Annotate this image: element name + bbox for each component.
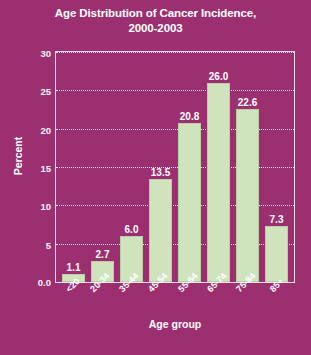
bar-slot: 26.0 xyxy=(204,52,233,282)
bar[interactable]: 13.5 xyxy=(149,179,172,283)
bar-value-label: 2.7 xyxy=(96,249,110,260)
bar-slot: 2.7 xyxy=(88,52,117,282)
bar[interactable]: 20.8 xyxy=(178,123,201,282)
bar-value-label: 22.6 xyxy=(238,97,257,108)
chart-title-line-2: 2000-2003 xyxy=(0,21,311,36)
y-tick-label-10: 10 xyxy=(40,201,51,212)
bar[interactable]: 26.0 xyxy=(207,83,230,282)
x-axis-tick-labels: <20 20-34 35-44 45-54 55-64 65-74 75-84 … xyxy=(55,283,295,319)
y-tick-label-30: 30 xyxy=(40,48,51,59)
chart-title: Age Distribution of Cancer Incidence, 20… xyxy=(0,6,311,36)
bar-value-label: 13.5 xyxy=(151,167,170,178)
x-tick-slot: 35-44 xyxy=(117,283,146,319)
bar-slot: 7.3 xyxy=(262,52,291,282)
bar-slot: 6.0 xyxy=(117,52,146,282)
x-tick-slot: 85+ xyxy=(263,283,292,319)
x-tick-slot: 20-34 xyxy=(87,283,116,319)
y-tick-label-25: 25 xyxy=(40,86,51,97)
y-tick-label-20: 20 xyxy=(40,124,51,135)
x-tick-slot: 55-64 xyxy=(175,283,204,319)
chart-title-line-1: Age Distribution of Cancer Incidence, xyxy=(55,7,256,19)
y-tick-label-5: 5 xyxy=(46,239,51,250)
y-tick-label-15: 15 xyxy=(40,163,51,174)
x-axis-title: Age group xyxy=(55,318,295,330)
bar-value-label: 20.8 xyxy=(180,111,199,122)
bar-value-label: 1.1 xyxy=(67,262,81,273)
plot-area: 30 25 20 15 10 5 0.0 1.1 xyxy=(55,51,295,283)
x-tick-slot: 65-74 xyxy=(204,283,233,319)
bar-value-label: 26.0 xyxy=(209,71,228,82)
y-tick-label-0: 0.0 xyxy=(38,277,51,288)
bar[interactable]: 7.3 xyxy=(265,226,288,282)
bar-slot: 1.1 xyxy=(59,52,88,282)
x-tick-slot: <20 xyxy=(58,283,87,319)
x-tick-slot: 45-54 xyxy=(146,283,175,319)
x-tick-slot: 75-84 xyxy=(234,283,263,319)
chart-figure: Age Distribution of Cancer Incidence, 20… xyxy=(0,0,311,355)
bar-series: 1.1 2.7 6.0 13.5 20.8 xyxy=(56,52,294,282)
bar-slot: 20.8 xyxy=(175,52,204,282)
bar-value-label: 7.3 xyxy=(270,214,284,225)
bar-slot: 22.6 xyxy=(233,52,262,282)
bar[interactable]: 22.6 xyxy=(236,109,259,282)
y-axis-title: Percent xyxy=(12,116,24,196)
bar-slot: 13.5 xyxy=(146,52,175,282)
bar-value-label: 6.0 xyxy=(125,224,139,235)
